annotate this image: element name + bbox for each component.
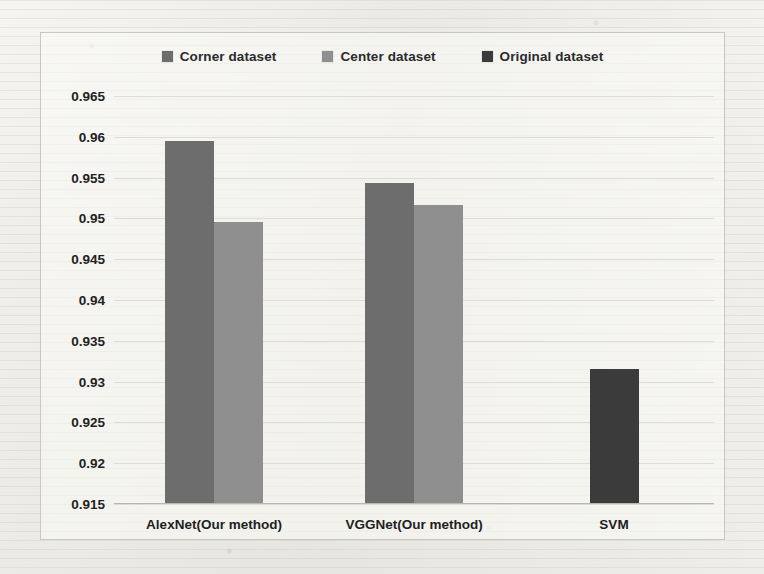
gridline	[114, 504, 714, 505]
bar-group: VGGNet(Our method)	[314, 96, 514, 504]
y-axis-tick-label: 0.94	[79, 293, 105, 308]
y-axis-tick-label: 0.93	[79, 374, 105, 389]
legend-swatch-icon	[322, 51, 333, 62]
legend-label: Corner dataset	[180, 49, 277, 64]
legend-item[interactable]: Center dataset	[322, 49, 435, 64]
bar[interactable]	[214, 222, 263, 504]
legend-swatch-icon	[482, 51, 493, 62]
bar[interactable]	[414, 205, 463, 504]
x-axis-tick-label: SVM	[599, 517, 628, 532]
bar[interactable]	[165, 141, 214, 504]
legend-item[interactable]: Original dataset	[482, 49, 604, 64]
plot-area: 0.9650.960.9550.950.9450.940.9350.930.92…	[114, 96, 714, 504]
y-axis-tick-label: 0.96	[79, 129, 105, 144]
bar-group: SVM	[514, 96, 714, 504]
x-axis-tick-label: VGGNet(Our method)	[345, 517, 482, 532]
legend-label: Original dataset	[500, 49, 604, 64]
y-axis-tick-label: 0.915	[71, 497, 105, 512]
x-axis-tick-label: AlexNet(Our method)	[146, 517, 282, 532]
legend-label: Center dataset	[340, 49, 435, 64]
x-axis-line	[114, 503, 714, 504]
chart-frame: Corner datasetCenter datasetOriginal dat…	[40, 32, 725, 540]
bar[interactable]	[590, 369, 639, 504]
y-axis-tick-label: 0.955	[71, 170, 105, 185]
y-axis-tick-label: 0.92	[79, 456, 105, 471]
y-axis-tick-label: 0.925	[71, 415, 105, 430]
y-axis-tick-label: 0.935	[71, 333, 105, 348]
bar[interactable]	[365, 183, 414, 504]
y-axis-tick-label: 0.965	[71, 89, 105, 104]
bar-group: AlexNet(Our method)	[114, 96, 314, 504]
y-axis-tick-label: 0.95	[79, 211, 105, 226]
chart-legend: Corner datasetCenter datasetOriginal dat…	[41, 49, 724, 64]
legend-item[interactable]: Corner dataset	[162, 49, 277, 64]
legend-swatch-icon	[162, 51, 173, 62]
y-axis-tick-label: 0.945	[71, 252, 105, 267]
